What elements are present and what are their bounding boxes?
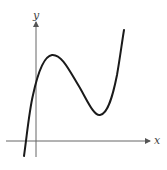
function-curve <box>24 30 124 156</box>
x-axis-label: x <box>154 134 161 147</box>
y-axis-label: y <box>32 9 40 22</box>
function-graph: x y <box>0 0 167 170</box>
